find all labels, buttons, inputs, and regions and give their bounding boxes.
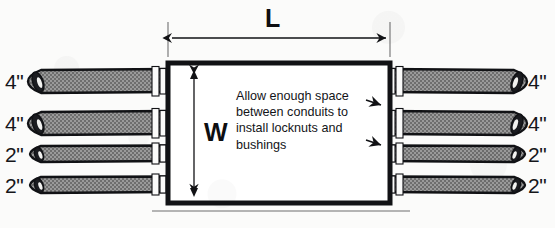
diagram-canvas: 4" 4" 2" 2" 4" 4" 2" 2" L W Allow enough…	[0, 0, 555, 228]
conduit-size-label-left-3: 2"	[5, 144, 23, 165]
conduit-size-label-right-4: 2"	[528, 175, 546, 196]
conduit-size-label-right-3: 2"	[528, 144, 546, 165]
conduit-size-label-left-4: 2"	[5, 175, 23, 196]
conduit-size-label-left-1: 4"	[5, 71, 23, 92]
conduit-left-1	[28, 67, 169, 97]
conduit-right-3	[386, 143, 525, 164]
conduit-right-4	[386, 174, 525, 195]
conduit-size-label-right-1: 4"	[528, 71, 546, 92]
conduit-left-4	[30, 174, 169, 195]
conduit-size-label-left-2: 4"	[5, 113, 23, 134]
box-note-text: Allow enough space between conduits to i…	[236, 88, 378, 153]
conduit-left-2	[28, 109, 169, 139]
length-dimension-label: L	[265, 6, 280, 31]
conduit-size-label-right-2: 4"	[528, 113, 546, 134]
width-dimension-label: W	[204, 120, 228, 145]
conduit-left-3	[30, 143, 169, 164]
conduit-right-1	[386, 67, 527, 97]
conduit-right-2	[386, 109, 527, 139]
